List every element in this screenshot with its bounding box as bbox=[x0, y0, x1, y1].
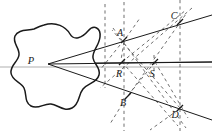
line-P-A-C bbox=[48, 15, 212, 64]
label-P: P bbox=[27, 55, 35, 66]
line-P-B-D bbox=[48, 64, 212, 120]
label-A: A bbox=[116, 27, 124, 38]
dash-A-to-R bbox=[121, 42, 124, 60]
label-D: D bbox=[170, 109, 179, 120]
dash-A-up-right bbox=[126, 18, 140, 38]
dash-B-up-right bbox=[128, 14, 186, 96]
dash-C-R-extended bbox=[100, 8, 192, 88]
figure-canvas: P A C B D R S bbox=[0, 0, 212, 131]
label-B: B bbox=[120, 97, 126, 108]
label-R: R bbox=[115, 68, 122, 79]
geometry-figure: P A C B D R S bbox=[0, 0, 212, 131]
label-S: S bbox=[150, 68, 155, 79]
vertical-dashed-lines bbox=[105, 0, 180, 131]
label-C: C bbox=[171, 10, 178, 21]
